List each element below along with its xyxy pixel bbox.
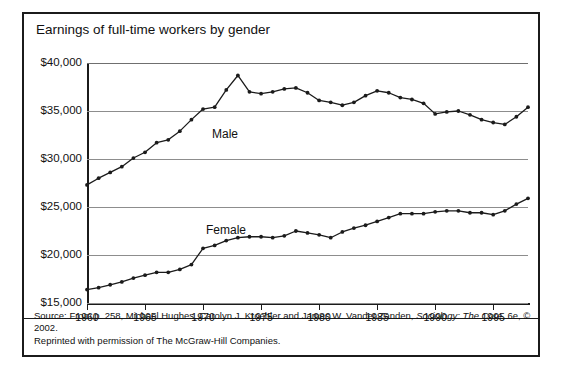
x-tick-label: 1980 [307,311,330,323]
x-tick [203,305,204,310]
scan-artifact-text [22,0,542,3]
figure-container: Earnings of full-time workers by gender … [22,12,540,357]
gridline-40000 [87,63,528,64]
gridline-25000 [87,207,528,208]
source-line-2: Reprinted with permission of The McGraw-… [34,335,532,348]
x-tick-label: 1970 [191,311,214,323]
figure-page: Earnings of full-time workers by gender … [0,0,566,370]
y-tick-label: $20,000 [40,248,82,260]
x-tick-label: 1965 [133,311,156,323]
plot-area [87,63,528,303]
x-tick [435,305,436,310]
source-line-1: Source: From p. 258, Michael Hughes, Car… [34,310,532,335]
x-tick [377,305,378,310]
gridline-15000 [87,303,528,304]
x-tick [145,305,146,310]
source-note: Source: From p. 258, Michael Hughes, Car… [34,310,532,348]
x-tick-label: 1990 [423,311,446,323]
x-tick-label: 1985 [365,311,388,323]
gridline-20000 [87,255,528,256]
x-tick [87,305,88,310]
y-tick-label: $35,000 [40,104,82,116]
x-tick-label: 1995 [481,311,504,323]
x-tick [319,305,320,310]
y-tick-label: $15,000 [40,296,82,308]
gridline-35000 [87,111,528,112]
y-tick-label: $40,000 [40,56,82,68]
x-tick [261,305,262,310]
y-axis-labels: $40,000$35,000$30,000$25,000$20,000$15,0… [24,14,82,359]
y-tick-label: $30,000 [40,152,82,164]
series-label-female: Female [206,223,246,237]
x-tick-label: 1960 [75,311,98,323]
y-tick-label: $25,000 [40,200,82,212]
x-tick-label: 1975 [249,311,272,323]
series-label-male: Male [212,127,238,141]
gridline-30000 [87,159,528,160]
x-tick [493,305,494,310]
